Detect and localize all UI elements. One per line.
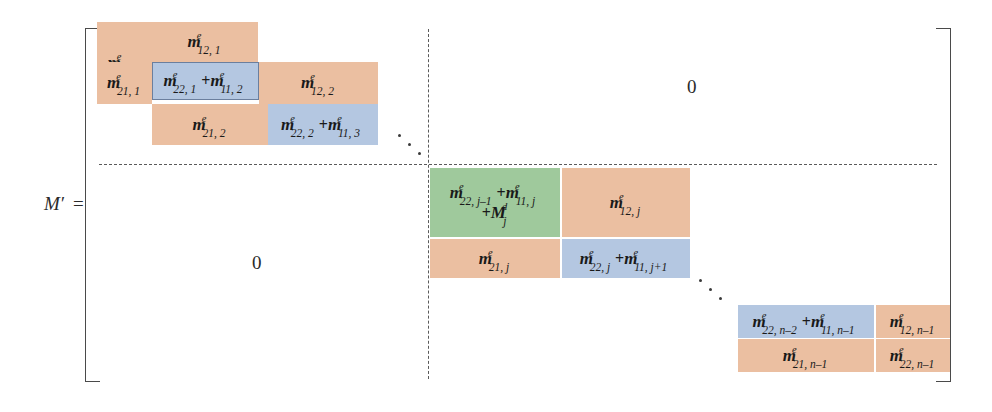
cell-m22-2-plus-m11-3-term2-sub: 11, 3 [338,127,360,139]
cell-m11-1-sup: e [117,51,122,62]
cell-m12-1: me12, 1 [152,22,258,62]
cell-m21-1-sub: 21, 1 [117,85,140,97]
matrix-label-prime: ′ [60,193,64,214]
cell-m22-1-plus-m11-2: me22, 1+me11, 2 [152,62,259,100]
cell-green-line1-term1-sup: e [459,181,464,192]
cell-m21-j-sub: 21, j [489,261,509,273]
cell-green-line1-term2-sub: 11, j [516,195,536,207]
cell-m22-nm2-operator: + [802,313,811,330]
cell-m21-j-sup: e [488,247,493,258]
cell-m21-2-sup: e [202,113,207,124]
cell-m22-nm2-term1-sub: 22, n–2 [762,324,797,336]
cell-m12-2-sup: e [310,71,315,82]
cell-m21-nm1-sub: 21, n–1 [793,358,828,370]
cell-m21-nm1: me21, n–1 [738,339,874,372]
cell-m12-nm1-sup: e [899,310,904,321]
cell-m21-2-sub: 21, 2 [202,127,225,139]
cell-m22-2-plus-m11-3-term1-sub: 22, 2 [291,127,314,139]
ellipsis-lower-diagonal [699,279,733,309]
cell-m22-nm2-term2-sup: e [820,310,825,321]
cell-m12-j-sup: e [619,191,624,202]
cell-m12-nm1: me12, n–1 [876,305,950,338]
cell-m12-1-sup: e [197,30,202,41]
cell-m12-1-sub: 12, 1 [197,44,220,56]
cell-m22-j-plus-m11-jp1-term1-sub: 22, j [590,261,610,273]
cell-m22-2-plus-m11-3: me22, 2+me11, 3 [268,104,378,145]
cell-green-line2-term-sup: d [502,201,507,212]
cell-m22-j-plus-m11-jp1-term2-sub: 11, j+1 [634,261,667,273]
cell-m22-nm2-term2-sub: 11, n–1 [821,324,855,336]
cell-green-line2-term-sub: j [503,215,506,227]
matrix-label: M′= [44,193,84,215]
cell-green-line1-operator: + [497,184,506,201]
horizontal-partition-line [99,164,937,165]
cell-m12-j-sub: 12, j [620,205,640,217]
cell-green-line1-term1-sub: 22, j–1 [460,195,492,207]
cell-m12-2-sub: 12, 2 [311,85,334,97]
cell-m22-1-plus-m11-2-term2-sup: e [220,69,225,80]
bottom-left-zero: 0 [252,252,262,274]
cell-m12-j: me12, j [562,168,690,237]
top-right-zero: 0 [687,76,697,98]
cell-m22-nm1-sup: e [899,344,904,355]
cell-m22-2-plus-m11-3-term1-sup: e [290,113,295,124]
cell-m22-1-plus-m11-2-term1-sup: e [173,69,178,80]
cell-m22-2-plus-m11-3-term2-sup: e [337,113,342,124]
cell-m22-nm2-term1-sup: e [762,310,767,321]
cell-m22-2-plus-m11-3-operator: + [319,116,328,133]
cell-m21-j: me21, j [430,239,560,278]
matrix-label-variable: M [44,193,60,214]
vertical-partition-line [428,29,429,379]
cell-m21-nm1-sup: e [792,344,797,355]
cell-m22-nm1-sub: 22, n–1 [900,358,935,370]
cell-m22-nm1: me22, n–1 [876,339,950,372]
cell-m21-1: me21, 1 [97,62,152,104]
cell-m12-2: me12, 2 [259,62,378,104]
cell-m21-2: me21, 2 [152,104,268,145]
cell-m22-1-plus-m11-2-term1-sub: 22, 1 [173,83,196,95]
cell-m22-nm2-plus-m11-nm1: me22, n–2+me11, n–1 [738,305,874,338]
cell-green-line1-term2-sup: e [515,181,520,192]
cell-m22-j-plus-m11-jp1-term1-sup: e [589,247,594,258]
cell-m22-jm1-plus-m11-j-plus-Mjd: me22, j–1+me11, j +Mdj [430,168,560,237]
matrix-label-equals: = [73,193,84,214]
cell-m22-j-plus-m11-jp1-operator: + [615,250,624,267]
cell-m21-1-sup: e [116,71,121,82]
cell-m22-j-plus-m11-jp1: me22, j+me11, j+1 [562,239,690,278]
matrix-figure: M′= me11, 1 me12, 1 me21, 1 me22, 1+me11… [0,0,992,412]
ellipsis-upper-diagonal [398,134,432,164]
cell-m22-1-plus-m11-2-term2-sub: 11, 2 [220,83,242,95]
cell-m12-nm1-sub: 12, n–1 [900,324,935,336]
cell-m22-j-plus-m11-jp1-term2-sup: e [633,247,638,258]
